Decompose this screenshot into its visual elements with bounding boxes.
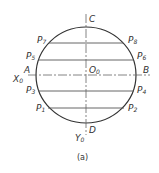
label-d: D (89, 125, 96, 135)
label-a: A (23, 65, 30, 75)
label-p4: P4 (137, 85, 146, 95)
figure-caption: (a) (77, 153, 88, 162)
label-y0: Y0 (75, 133, 85, 143)
label-p8: P8 (128, 35, 137, 45)
label-p2: P2 (128, 103, 137, 113)
label-p3: P3 (26, 85, 35, 95)
label-p5: P5 (26, 51, 35, 61)
label-o0: O0 (89, 65, 100, 75)
label-b: B (143, 65, 149, 75)
label-x0: X0 (12, 74, 23, 84)
label-c: C (89, 14, 96, 24)
label-p7: P7 (37, 35, 46, 45)
circle-diagram: C D Y0 A X0 B O0 P7 P8 P5 P6 P3 P4 P1 P2… (0, 0, 159, 173)
label-p1: P1 (36, 103, 45, 113)
label-p6: P6 (137, 51, 146, 61)
